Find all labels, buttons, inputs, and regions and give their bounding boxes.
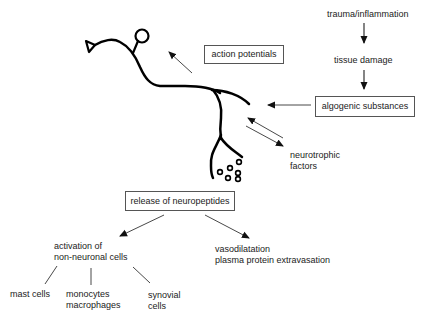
line-to-mast-cells <box>45 266 57 284</box>
axon-proximal <box>95 40 220 93</box>
box-algogenic-text: algogenic substances <box>322 101 409 112</box>
trunk <box>213 90 221 139</box>
sensory-terminal-icon <box>86 41 95 52</box>
box-algogenic-substances: algogenic substances <box>315 96 415 117</box>
activation-line2: non-neuronal cells <box>54 252 128 263</box>
box-release-text: release of neuropeptides <box>130 196 229 207</box>
soma-circle-icon <box>136 30 149 43</box>
branch-right <box>221 138 242 157</box>
neurotrophic-line2: factors <box>290 161 340 172</box>
label-monocytes-macrophages: monocytes macrophages <box>66 289 121 311</box>
neuropeptide-vesicles-icon <box>218 160 242 182</box>
branch-left <box>211 135 221 178</box>
line-to-synovial <box>133 267 150 283</box>
label-neurotrophic-factors: neurotrophic factors <box>290 150 340 172</box>
label-tissue-damage: tissue damage <box>334 55 393 66</box>
arrow-to-action-potentials <box>169 52 192 73</box>
arrow-to-activation <box>120 215 164 236</box>
arrow-to-vasodilatation <box>205 215 249 238</box>
neurotrophic-line1: neurotrophic <box>290 150 340 161</box>
mono-line1: monocytes <box>66 289 121 300</box>
arrow-neurotrophic-out <box>246 126 283 146</box>
box-action-potentials: action potentials <box>204 45 284 64</box>
mono-line2: macrophages <box>66 300 121 311</box>
syn-line1: synovial <box>148 290 181 301</box>
syn-line2: cells <box>148 301 181 312</box>
label-mast-cells: mast cells <box>10 289 50 300</box>
box-release-neuropeptides: release of neuropeptides <box>125 191 235 211</box>
label-trauma-inflammation: trauma/inflammation <box>327 9 409 20</box>
box-action-potentials-text: action potentials <box>211 49 276 60</box>
label-synovial-cells: synovial cells <box>148 290 181 312</box>
soma-stalk <box>133 41 138 53</box>
activation-line1: activation of <box>54 241 128 252</box>
vaso-line1: vasodilatation <box>215 244 330 255</box>
label-activation-non-neuronal: activation of non-neuronal cells <box>54 241 128 263</box>
vaso-line2: plasma protein extravasation <box>215 255 330 266</box>
arrow-neurotrophic-in <box>248 118 283 138</box>
label-vasodilatation: vasodilatation plasma protein extravasat… <box>215 244 330 266</box>
